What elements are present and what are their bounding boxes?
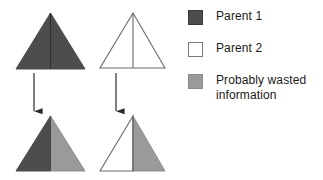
legend-label-parent-1: Parent 1 [216,9,262,24]
outlined-white-square-icon [188,42,203,57]
offspring-2-left-half [100,116,133,171]
legend-label-wasted-information: Probably wastedinformation [216,73,306,102]
solid-gray-square-icon [188,74,203,89]
legend-label-parent-2: Parent 2 [216,41,262,56]
offspring-1-right-half [51,116,86,171]
parent-1-triangle [16,13,85,69]
legend-label-wasted-line-2: information [216,88,306,103]
offspring-2-right-half [133,116,165,171]
offspring-1-triangle [16,116,85,171]
parent-2-triangle [100,13,165,68]
legend: Parent 1 Parent 2 Probably wastedinforma… [188,9,320,102]
crossover-diagram-figure: Parent 1 Parent 2 Probably wastedinforma… [0,0,323,180]
offspring-1-left-half [16,116,51,171]
legend-item-parent-1: Parent 1 [188,9,320,25]
legend-item-parent-2: Parent 2 [188,41,320,57]
legend-label-wasted-line-1: Probably wasted [216,73,306,87]
legend-item-wasted-information: Probably wastedinformation [188,73,320,102]
offspring-2-triangle [100,116,165,171]
solid-dark-square-icon [188,10,203,25]
